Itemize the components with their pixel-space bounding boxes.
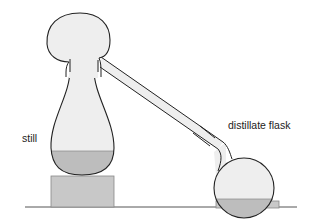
still-stand <box>51 176 114 207</box>
delivery-tube <box>100 57 223 149</box>
still-head <box>47 13 110 78</box>
still-label: still <box>22 132 37 144</box>
distillation-diagram <box>0 0 313 224</box>
distillate-flask-label: distillate flask <box>228 119 290 131</box>
still-vessel <box>45 70 120 181</box>
